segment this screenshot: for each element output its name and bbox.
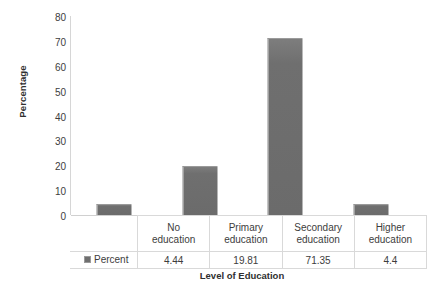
y-axis-tick-70: 70 bbox=[36, 38, 66, 48]
plot-area bbox=[71, 16, 414, 215]
bar-slot bbox=[243, 16, 329, 215]
table-row-values: Percent 4.4419.8171.354.4 bbox=[70, 252, 427, 269]
bar-chart: Percentage 01020304050607080 Noeducation… bbox=[0, 0, 428, 292]
x-axis-title: Level of Education bbox=[70, 270, 414, 281]
y-axis-tick-80: 80 bbox=[36, 13, 66, 23]
table-category-cell: Secondaryeducation bbox=[282, 216, 354, 252]
bar-slot bbox=[328, 16, 414, 215]
table-value-cell: 71.35 bbox=[282, 252, 354, 269]
bar-slot bbox=[71, 16, 157, 215]
y-axis-tick-labels: 01020304050607080 bbox=[36, 10, 66, 222]
bar-secondary-education[interactable] bbox=[268, 38, 303, 215]
table-category-cell: Highereducation bbox=[354, 216, 426, 252]
y-axis-tick-30: 30 bbox=[36, 137, 66, 147]
table-category-line: education bbox=[356, 234, 425, 246]
y-axis-tick-40: 40 bbox=[36, 113, 66, 123]
table-row-categories: NoeducationPrimaryeducationSecondaryeduc… bbox=[70, 216, 427, 252]
y-axis-tick-60: 60 bbox=[36, 63, 66, 73]
legend-series-label: Percent bbox=[94, 254, 128, 265]
table-value-cell: 4.4 bbox=[354, 252, 426, 269]
bar-no-education[interactable] bbox=[96, 204, 131, 215]
y-axis-tick-0: 0 bbox=[36, 212, 66, 222]
table-category-cell: Noeducation bbox=[138, 216, 210, 252]
y-axis-title: Percentage bbox=[17, 42, 28, 142]
table-category-line: Secondary bbox=[284, 222, 353, 234]
y-axis-tick-10: 10 bbox=[36, 187, 66, 197]
bar-slot bbox=[157, 16, 243, 215]
data-table: NoeducationPrimaryeducationSecondaryeduc… bbox=[70, 215, 427, 269]
bar-primary-education[interactable] bbox=[182, 166, 217, 215]
y-axis-tick-50: 50 bbox=[36, 88, 66, 98]
table-category-line: education bbox=[284, 234, 353, 246]
table-category-line: Higher bbox=[356, 222, 425, 234]
table-category-line: Primary bbox=[211, 222, 280, 234]
table-category-line: education bbox=[139, 234, 208, 246]
table-corner-cell bbox=[70, 216, 138, 252]
table-value-cell: 19.81 bbox=[210, 252, 282, 269]
bar-higher-education[interactable] bbox=[354, 204, 389, 215]
table-category-line: No bbox=[139, 222, 208, 234]
legend-cell: Percent bbox=[70, 252, 138, 269]
table-category-cell: Primaryeducation bbox=[210, 216, 282, 252]
table-category-line: education bbox=[211, 234, 280, 246]
percent-series-swatch-icon bbox=[84, 256, 91, 263]
table-value-cell: 4.44 bbox=[138, 252, 210, 269]
legend-entry: Percent bbox=[84, 254, 128, 265]
y-axis-tick-20: 20 bbox=[36, 162, 66, 172]
